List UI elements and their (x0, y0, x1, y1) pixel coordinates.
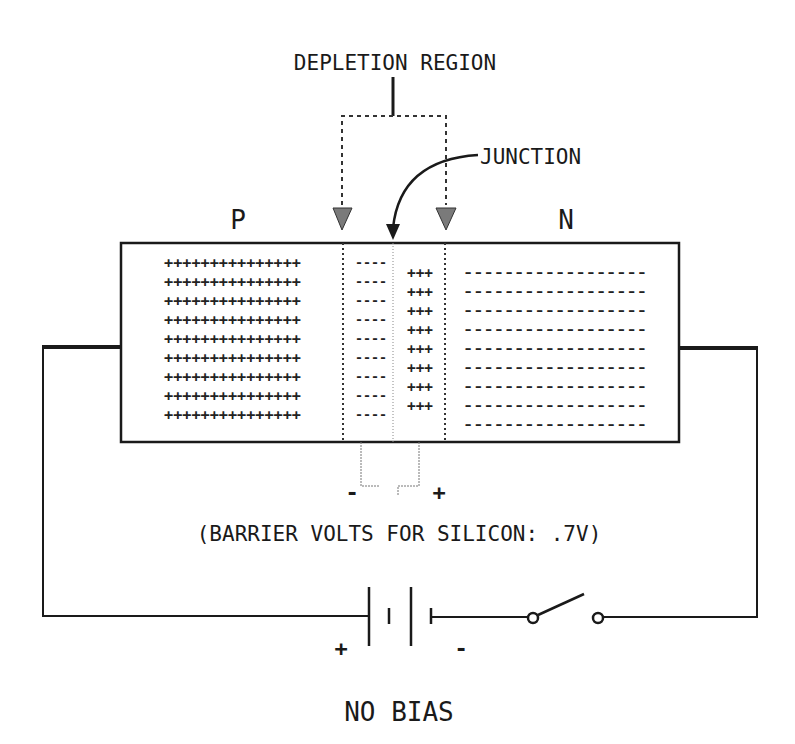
depletion-neg-row: ---- (355, 255, 387, 270)
p-charge-row: +++++++++++++++ (164, 293, 301, 309)
p-charge-row: +++++++++++++++ (164, 312, 301, 328)
depletion-pos-row: +++ (407, 360, 433, 376)
p-charge-row: +++++++++++++++ (164, 331, 301, 347)
n-region-charges: ------------------ ------------------ --… (463, 266, 647, 432)
depletion-neg-row: ---- (355, 369, 387, 384)
depletion-pos-row: +++ (407, 265, 433, 281)
n-charge-row: ------------------ (463, 399, 647, 413)
depletion-neg-row: ---- (355, 274, 387, 289)
depletion-negative-ions: ---- ---- ---- ---- ---- ---- ---- ---- … (355, 255, 387, 422)
n-charge-row: ------------------ (463, 285, 647, 299)
n-charge-row: ------------------ (463, 323, 647, 337)
p-charge-row: +++++++++++++++ (164, 407, 301, 423)
depletion-pos-row: +++ (407, 322, 433, 338)
depletion-neg-row: ---- (355, 407, 387, 422)
barrier-lead-left (361, 442, 380, 486)
depletion-region-label: DEPLETION REGION (294, 51, 496, 75)
junction-label: JUNCTION (480, 145, 581, 169)
n-charge-row: ------------------ (463, 380, 647, 394)
n-charge-row: ------------------ (463, 342, 647, 356)
diagram-caption: NO BIAS (344, 697, 454, 727)
depletion-left-arrow-icon (333, 208, 352, 230)
switch-icon (528, 594, 603, 623)
depletion-pos-row: +++ (407, 303, 433, 319)
depletion-pos-row: +++ (407, 379, 433, 395)
junction-arrowhead-icon (386, 224, 400, 240)
p-region-charges: +++++++++++++++ +++++++++++++++ ++++++++… (164, 255, 301, 423)
barrier-note: (BARRIER VOLTS FOR SILICON: .7V) (197, 522, 602, 546)
depletion-neg-row: ---- (355, 388, 387, 403)
p-charge-row: +++++++++++++++ (164, 388, 301, 404)
p-charge-row: +++++++++++++++ (164, 369, 301, 385)
n-side-label: N (558, 205, 574, 235)
p-charge-row: +++++++++++++++ (164, 255, 301, 271)
depletion-region-bracket (342, 116, 446, 205)
p-charge-row: +++++++++++++++ (164, 350, 301, 366)
junction-arrow (393, 155, 478, 228)
depletion-pos-row: +++ (407, 398, 433, 414)
n-charge-row: ------------------ (463, 266, 647, 280)
barrier-lead-right (398, 442, 419, 496)
battery-plus-sign: + (334, 636, 347, 661)
depletion-pos-row: +++ (407, 341, 433, 357)
depletion-neg-row: ---- (355, 312, 387, 327)
n-charge-row: ------------------ (463, 304, 647, 318)
battery-minus-sign: - (454, 636, 467, 661)
p-charge-row: +++++++++++++++ (164, 274, 301, 290)
n-charge-row: ------------------ (463, 361, 647, 375)
barrier-plus-sign: + (432, 480, 445, 505)
depletion-pos-row: +++ (407, 284, 433, 300)
barrier-minus-sign: - (345, 480, 358, 505)
n-charge-row: ------------------ (463, 418, 647, 432)
depletion-neg-row: ---- (355, 350, 387, 365)
depletion-neg-row: ---- (355, 293, 387, 308)
pn-junction-diagram: DEPLETION REGION JUNCTION P N ++++++++++… (0, 0, 795, 744)
p-side-label: P (230, 205, 246, 235)
battery-icon (369, 587, 431, 646)
depletion-neg-row: ---- (355, 331, 387, 346)
depletion-right-arrow-icon (436, 208, 456, 230)
